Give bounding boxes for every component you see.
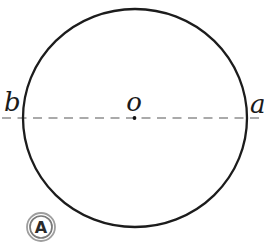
label-center-o: o xyxy=(126,87,142,117)
geometry-diagram: b o a A xyxy=(0,0,264,246)
label-right-endpoint-a: a xyxy=(250,89,264,119)
label-left-endpoint-b: b xyxy=(4,87,21,117)
circled-a-badge: A xyxy=(27,213,55,241)
figure-svg: b o a A xyxy=(0,0,264,246)
badge-letter: A xyxy=(35,218,48,237)
